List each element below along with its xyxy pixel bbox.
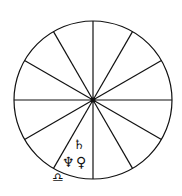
chart-wheel: ♄ ♆ ♀ ♎ <box>0 0 182 196</box>
venus-icon: ♀ <box>76 154 86 170</box>
house-divider-line <box>93 32 133 100</box>
house-divider-line <box>93 100 133 168</box>
saturn-icon: ♄ <box>73 137 85 152</box>
house-divider-line <box>93 100 161 140</box>
neptune-icon: ♆ <box>62 154 75 170</box>
house-divider-line <box>54 32 94 100</box>
house-divider-line <box>93 61 161 101</box>
center-dot <box>91 98 96 103</box>
house-divider-line <box>25 61 93 101</box>
libra-icon: ♎ <box>52 170 64 185</box>
house-divider-line <box>25 100 93 140</box>
